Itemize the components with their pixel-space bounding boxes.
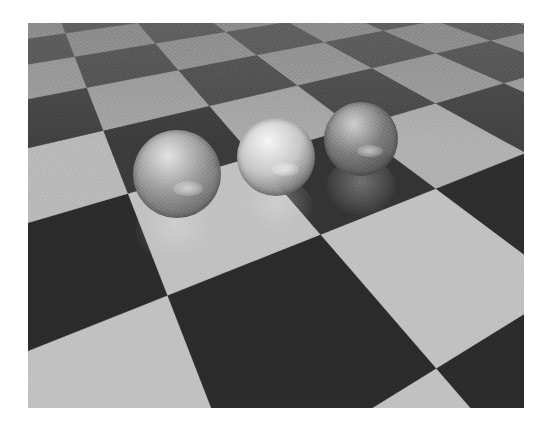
- render-frame: [28, 23, 524, 408]
- left-glass-sphere: [133, 130, 221, 218]
- checkerboard-floor: [28, 23, 524, 408]
- right-glass-sphere: [324, 102, 398, 176]
- middle-glass-sphere: [237, 118, 315, 196]
